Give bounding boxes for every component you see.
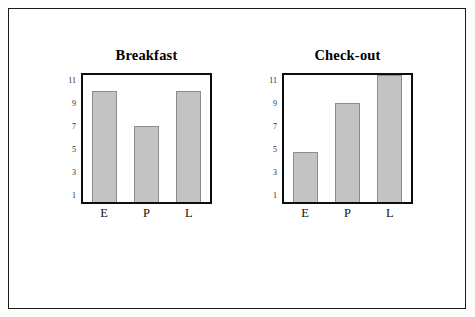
plot-frame-checkout — [282, 73, 413, 204]
y-tick-label: 5 — [72, 144, 76, 153]
y-tick-label: 3 — [273, 167, 277, 176]
chart-panel-checkout: Check-out 1197531 EPL — [260, 47, 435, 237]
x-tick-label: P — [344, 206, 351, 221]
chart-title-breakfast: Breakfast — [59, 47, 234, 64]
x-tick-label: E — [100, 206, 108, 221]
x-tick-label: L — [386, 206, 394, 221]
bar — [176, 91, 201, 202]
bar — [377, 75, 402, 202]
bar — [92, 91, 117, 202]
y-tick-label: 9 — [273, 98, 277, 107]
bar — [335, 103, 360, 202]
y-tick-label: 1 — [72, 191, 76, 200]
figure-border: Breakfast 1197531 EPL Check-out 1197531 … — [8, 8, 466, 309]
bar — [134, 126, 159, 202]
y-tick-label: 7 — [273, 121, 277, 130]
chart-title-checkout: Check-out — [260, 47, 435, 64]
bar — [293, 152, 318, 202]
y-tick-label: 1 — [273, 191, 277, 200]
y-tick-label: 11 — [269, 75, 277, 84]
plot-area-checkout — [284, 75, 411, 202]
y-tick-label: 3 — [72, 167, 76, 176]
x-tick-label: L — [185, 206, 193, 221]
plot-area-breakfast — [83, 75, 210, 202]
y-tick-label: 9 — [72, 98, 76, 107]
x-tick-label: E — [301, 206, 309, 221]
chart-panel-breakfast: Breakfast 1197531 EPL — [59, 47, 234, 237]
plot-frame-breakfast — [81, 73, 212, 204]
x-axis-breakfast: EPL — [81, 206, 212, 226]
x-axis-checkout: EPL — [282, 206, 413, 226]
y-tick-label: 11 — [68, 75, 76, 84]
figure-root: Breakfast 1197531 EPL Check-out 1197531 … — [0, 0, 475, 317]
y-tick-label: 7 — [72, 121, 76, 130]
x-tick-label: P — [143, 206, 150, 221]
y-tick-label: 5 — [273, 144, 277, 153]
